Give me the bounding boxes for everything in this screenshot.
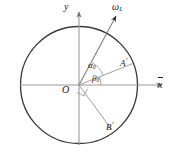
figure-container: ωL y x O α0 β0 A′ B′ [0, 0, 174, 156]
beta-subscript: 0 [97, 77, 100, 83]
diagram-canvas [0, 0, 174, 156]
point-b-symbol: B [106, 122, 112, 132]
point-a-prime-label: A′ [120, 58, 127, 68]
point-a-prime-mark: ′ [126, 57, 128, 66]
x-axis-label-text: x [158, 79, 162, 90]
alpha-subscript: 0 [93, 64, 96, 70]
x-axis-label: x [158, 80, 162, 90]
omega-label: ωL [112, 2, 123, 12]
beta-angle-label: β0 [92, 74, 99, 84]
point-a-symbol: A [120, 58, 126, 68]
alpha-angle-label: α0 [88, 61, 96, 71]
y-axis-label: y [64, 2, 68, 12]
beta-angle-arc [99, 77, 101, 85]
point-b-prime-label: B′ [106, 122, 113, 132]
beta-symbol: β [92, 73, 96, 83]
omega-subscript: L [119, 5, 122, 12]
point-b-prime-mark: ′ [112, 121, 114, 130]
origin-label: O [62, 85, 69, 95]
omega-symbol: ω [112, 1, 119, 12]
